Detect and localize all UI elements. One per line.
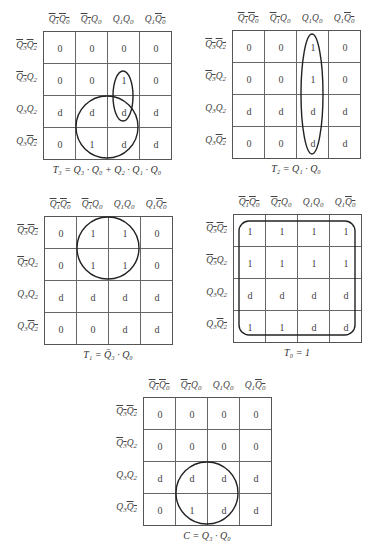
kmap-cell: 1 (298, 247, 330, 279)
row-header: Q3Q2 (188, 135, 226, 147)
row-header: Q3Q2 (0, 136, 37, 148)
kmap-cell: 0 (329, 31, 361, 63)
column-header: Q1Q0 (140, 199, 172, 211)
row-header: Q3Q2 (0, 225, 38, 237)
kmap-cell: 1 (109, 217, 141, 249)
column-header: Q1Q0 (296, 13, 328, 25)
kmap-cell: d (233, 95, 265, 127)
column-header: Q1Q0 (329, 197, 361, 209)
kmap-grid: 01100110dddd00dd (44, 216, 173, 345)
row-header: Q3Q2 (0, 72, 37, 84)
kmap-cell: d (208, 494, 240, 526)
kmap-cell: d (240, 462, 272, 494)
kmap-cell: 1 (266, 215, 298, 247)
column-header: Q1Q0 (44, 199, 76, 211)
kmap-grid: 00100010dddd00dd (232, 30, 361, 159)
kmap-cell: 0 (265, 127, 297, 159)
row-header: Q3Q2 (99, 406, 137, 418)
column-header: Q1Q0 (108, 199, 140, 211)
kmap-cell: 0 (233, 63, 265, 95)
kmap-cell: 1 (108, 64, 140, 96)
kmap-equation: T₁ = Q̄₃ · Q₀ (14, 349, 202, 360)
row-header: Q3Q2 (99, 470, 137, 482)
kmap-grid: 00000000dddd01dd (143, 397, 272, 526)
column-header: Q1Q0 (233, 197, 265, 209)
kmap-equation: T₀ = 1 (203, 347, 378, 358)
kmap-cell: d (330, 311, 362, 343)
kmap-cell: 0 (240, 398, 272, 430)
kmap-cell: d (109, 313, 141, 345)
column-header: Q1Q0 (75, 14, 107, 26)
column-header: Q1Q0 (76, 199, 108, 211)
kmap-grid: 11111111dddd11dd (233, 214, 362, 343)
kmap-cell: 1 (234, 311, 266, 343)
kmap-cell: 0 (329, 63, 361, 95)
kmap-cell: 1 (266, 311, 298, 343)
kmap-cell: d (141, 281, 173, 313)
kmap-cell: d (77, 281, 109, 313)
column-header: Q1Q0 (143, 380, 175, 392)
row-header: Q3Q2 (189, 223, 227, 235)
kmap-cell: d (297, 127, 329, 159)
kmap-cell: d (109, 281, 141, 313)
kmap-cell: d (330, 279, 362, 311)
kmap-cell: d (108, 128, 140, 160)
kmap-cell: d (266, 279, 298, 311)
kmap-cell: 1 (330, 215, 362, 247)
kmap-cell: d (265, 95, 297, 127)
kmap-cell: 0 (108, 32, 140, 64)
kmap-cell: 1 (176, 494, 208, 526)
kmap-equation: C = Q₃ · Q₀ (113, 530, 301, 541)
column-header: Q1Q0 (264, 13, 296, 25)
column-header: Q1Q0 (232, 13, 264, 25)
kmap-cell: 0 (44, 128, 76, 160)
column-header: Q1Q0 (43, 14, 75, 26)
kmap-cell: 0 (141, 217, 173, 249)
kmap-cell: 0 (44, 32, 76, 64)
column-header: Q1Q0 (297, 197, 329, 209)
kmap-cell: 1 (297, 63, 329, 95)
row-header: Q3Q2 (0, 104, 37, 116)
kmap-cell: 0 (265, 31, 297, 63)
kmap-cell: 0 (240, 430, 272, 462)
kmap-cell: 0 (77, 313, 109, 345)
row-header: Q3Q2 (0, 321, 38, 333)
kmap-cell: 0 (144, 494, 176, 526)
kmap-cell: d (234, 279, 266, 311)
kmap-cell: d (329, 127, 361, 159)
kmap-cell: d (208, 462, 240, 494)
column-header: Q1Q0 (175, 380, 207, 392)
kmap-cell: d (297, 95, 329, 127)
row-header: Q3Q2 (189, 287, 227, 299)
kmap-cell: d (141, 313, 173, 345)
row-header: Q3Q2 (188, 71, 226, 83)
row-header: Q3Q2 (188, 103, 226, 115)
column-header: Q1Q0 (328, 13, 360, 25)
kmap-cell: d (144, 462, 176, 494)
row-header: Q3Q2 (188, 39, 226, 51)
kmap-cell: d (298, 311, 330, 343)
row-header: Q3Q2 (99, 502, 137, 514)
row-header: Q3Q2 (0, 289, 38, 301)
kmap-cell: d (76, 96, 108, 128)
kmap-cell: 0 (144, 430, 176, 462)
row-header: Q3Q2 (189, 255, 227, 267)
kmap-cell: d (329, 95, 361, 127)
kmap-cell: 0 (45, 217, 77, 249)
row-header: Q3Q2 (0, 40, 37, 52)
kmap-cell: 0 (233, 127, 265, 159)
kmap-cell: 0 (144, 398, 176, 430)
kmap-cell: 1 (330, 247, 362, 279)
kmap-equation: T₂ = Q₁ · Q₀ (202, 163, 378, 174)
column-header: Q1Q0 (107, 14, 139, 26)
kmap-cell: 0 (45, 249, 77, 281)
kmap-cell: 0 (44, 64, 76, 96)
kmap-cell: 1 (109, 249, 141, 281)
kmap-cell: 0 (265, 63, 297, 95)
kmap-cell: 1 (298, 215, 330, 247)
row-header: Q3Q2 (99, 438, 137, 450)
kmap-cell: 0 (233, 31, 265, 63)
kmap-cell: 1 (76, 128, 108, 160)
row-header: Q3Q2 (189, 319, 227, 331)
column-header: Q1Q0 (139, 14, 171, 26)
